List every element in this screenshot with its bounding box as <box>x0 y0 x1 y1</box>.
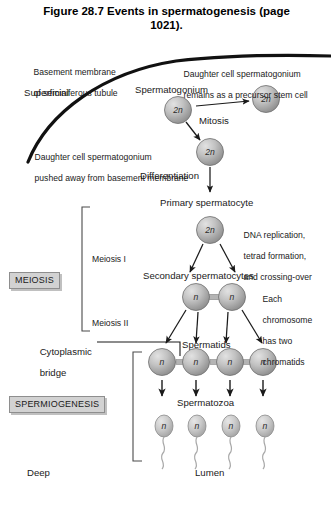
cell-spermatid-2 <box>183 349 210 376</box>
chromatid-note-line-1: Each <box>263 294 283 304</box>
cell-spermatid-3 <box>217 349 244 376</box>
chromatid-note-line-3: has two <box>263 336 293 346</box>
basement-membrane-line-1: Basement membrane <box>34 67 116 77</box>
arrow-mitosis-to-daughter <box>186 122 200 140</box>
label-chromatid-note: Each chromosome has two chromatids <box>253 283 312 378</box>
dna-note-line-2: tetrad formation, <box>244 251 307 261</box>
daughter-stem-line-1: Daughter cell spermatogonium <box>184 69 301 79</box>
meiosis-bracket <box>82 207 90 331</box>
figure-panel: Figure 28.7 Events in spermatogenesis (p… <box>0 0 331 507</box>
spermatozoon-4 <box>256 415 274 469</box>
chromatid-note-line-2: chromosome <box>263 315 313 325</box>
cell-spermatogonium-pushed <box>197 139 224 166</box>
label-primary-spermatocyte: Primary spermatocyte <box>160 198 253 209</box>
section-box-meiosis: MEIOSIS <box>9 272 60 289</box>
spermatozoon-3 <box>222 415 240 469</box>
label-secondary-spermatocytes: Secondary spermatocytes <box>143 271 254 282</box>
spermatozoon-1 <box>155 415 173 469</box>
label-superficial: Superficial <box>24 88 69 99</box>
label-lumen: Lumen <box>195 468 224 479</box>
label-differentiation: Differentiation <box>140 171 199 182</box>
label-cytoplasmic-bridge: Cytoplasmic bridge <box>29 336 92 389</box>
label-daughter-pushed: Daughter cell spermatogonium pushed away… <box>25 141 188 194</box>
label-spermatids: Spermatids <box>182 340 231 351</box>
arrow-meiosis-i-left <box>190 244 203 272</box>
cytoplasmic-bridge-line-1: Cytoplasmic <box>40 346 92 357</box>
daughter-pushed-line-1: Daughter cell spermatogonium <box>35 152 152 162</box>
section-box-spermiogenesis: SPERMIOGENESIS <box>9 396 105 413</box>
label-meiosis-i: Meiosis I <box>92 254 126 265</box>
label-deep: Deep <box>27 468 50 479</box>
chromatid-note-line-4: chromatids <box>263 357 305 367</box>
label-basement-membrane: Basement membrane of seminiferous tubule <box>24 56 118 109</box>
spermiogenesis-bracket <box>133 352 142 461</box>
cell-spermatid-1 <box>149 349 176 376</box>
dna-note-line-1: DNA replication, <box>244 230 306 240</box>
cell-primary-spermatocyte <box>197 217 224 244</box>
cytoplasmic-bridge-line-2: bridge <box>40 367 67 378</box>
label-meiosis-ii: Meiosis II <box>92 318 128 329</box>
label-mitosis: Mitosis <box>199 116 229 127</box>
label-spermatozoa: Spermatozoa <box>177 398 234 409</box>
label-spermatogonium: Spermatogonium <box>135 85 208 96</box>
cell-secondary-spermatocyte-left <box>183 284 210 311</box>
arrow-meiosis-i-right <box>220 244 235 272</box>
spermatozoon-2 <box>188 415 206 469</box>
